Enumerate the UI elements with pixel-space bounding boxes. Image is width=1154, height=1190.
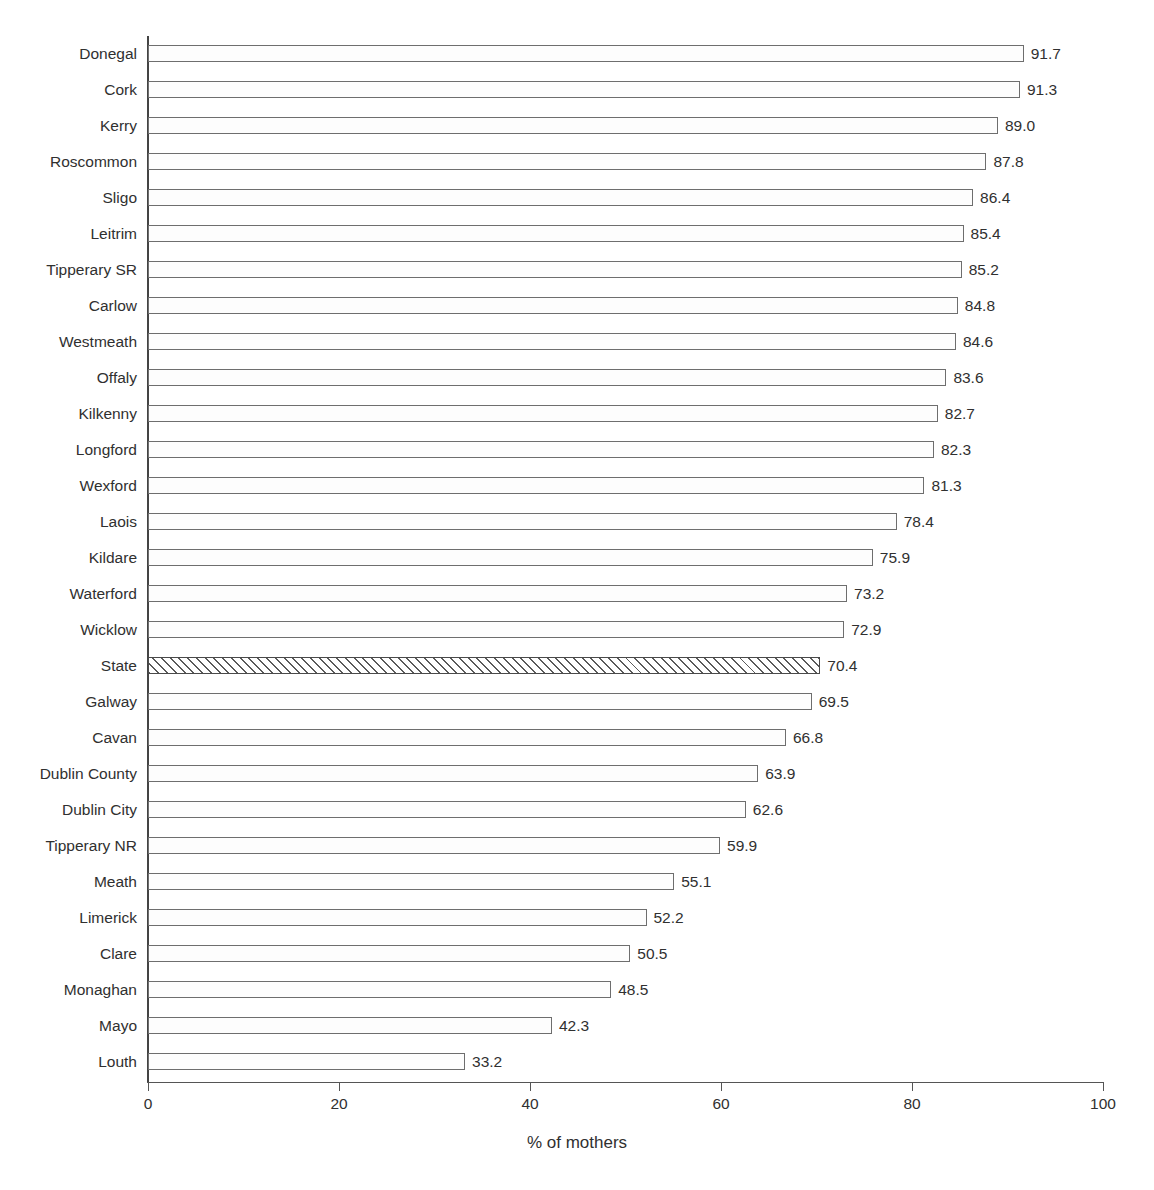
category-label: Wexford	[80, 468, 137, 504]
bar	[148, 801, 746, 818]
bar-row: Laois78.4	[148, 504, 1103, 540]
bar-value-label: 78.4	[897, 513, 934, 530]
bar-row: Dublin County63.9	[148, 756, 1103, 792]
bar	[148, 1017, 552, 1034]
category-label: Tipperary NR	[45, 828, 137, 864]
category-label: Kildare	[89, 540, 137, 576]
category-label: Laois	[100, 504, 137, 540]
x-tick-mark	[530, 1082, 531, 1091]
bar-row: Roscommon87.8	[148, 144, 1103, 180]
category-label: Cork	[104, 72, 137, 108]
bar-value-label: 69.5	[812, 693, 849, 710]
bar-value-label: 55.1	[674, 873, 711, 890]
category-label: Wicklow	[80, 612, 137, 648]
category-label: Longford	[76, 432, 137, 468]
bar-value-label: 63.9	[758, 765, 795, 782]
bar-value-label: 33.2	[465, 1053, 502, 1070]
bar-value-label: 48.5	[611, 981, 648, 998]
x-axis-spine	[147, 1082, 1104, 1083]
bar	[148, 477, 924, 494]
x-tick-label: 0	[144, 1095, 153, 1113]
bar	[148, 981, 611, 998]
bar-row: Offaly83.6	[148, 360, 1103, 396]
bar-value-label: 73.2	[847, 585, 884, 602]
bar	[148, 693, 812, 710]
bar-row: Carlow84.8	[148, 288, 1103, 324]
bar-row: Cork91.3	[148, 72, 1103, 108]
bar-row: Meath55.1	[148, 864, 1103, 900]
category-label: Cavan	[92, 720, 137, 756]
bar	[148, 549, 873, 566]
bar-row: Clare50.5	[148, 936, 1103, 972]
bar-row: Kerry89.0	[148, 108, 1103, 144]
bar-value-label: 75.9	[873, 549, 910, 566]
bar-value-label: 83.6	[946, 369, 983, 386]
category-label: Leitrim	[90, 216, 137, 252]
bar-row: Cavan66.8	[148, 720, 1103, 756]
bar-row: Waterford73.2	[148, 576, 1103, 612]
category-label: Mayo	[99, 1008, 137, 1044]
bar-value-label: 84.6	[956, 333, 993, 350]
category-label: Dublin County	[40, 756, 137, 792]
bar-row: Longford82.3	[148, 432, 1103, 468]
bar-row: Monaghan48.5	[148, 972, 1103, 1008]
bar-value-label: 42.3	[552, 1017, 589, 1034]
bar-value-label: 86.4	[973, 189, 1010, 206]
category-label: Sligo	[103, 180, 137, 216]
bar-row: Wexford81.3	[148, 468, 1103, 504]
category-label: Limerick	[79, 900, 137, 936]
bar-value-label: 66.8	[786, 729, 823, 746]
x-tick-label: 100	[1090, 1095, 1116, 1113]
category-label: Carlow	[89, 288, 137, 324]
x-tick-label: 40	[521, 1095, 538, 1113]
bar-value-label: 50.5	[630, 945, 667, 962]
category-label: Clare	[100, 936, 137, 972]
category-label: Tipperary SR	[46, 252, 137, 288]
bar	[148, 585, 847, 602]
bar	[148, 261, 962, 278]
bar-chart: Donegal91.7Cork91.3Kerry89.0Roscommon87.…	[0, 0, 1154, 1190]
bar-value-label: 87.8	[986, 153, 1023, 170]
bar-row: Leitrim85.4	[148, 216, 1103, 252]
bar-row: Donegal91.7	[148, 36, 1103, 72]
bar	[148, 621, 844, 638]
bar	[148, 945, 630, 962]
bar	[148, 405, 938, 422]
bar-value-label: 59.9	[720, 837, 757, 854]
category-label: Monaghan	[64, 972, 137, 1008]
category-label: Kilkenny	[78, 396, 137, 432]
bar	[148, 765, 758, 782]
bar	[148, 837, 720, 854]
x-tick-label: 80	[903, 1095, 920, 1113]
bar	[148, 729, 786, 746]
bar-value-label: 62.6	[746, 801, 783, 818]
bar	[148, 873, 674, 890]
bar-row: Louth33.2	[148, 1044, 1103, 1080]
bar	[148, 441, 934, 458]
category-label: State	[101, 648, 137, 684]
bar-row: Galway69.5	[148, 684, 1103, 720]
bar-row: Wicklow72.9	[148, 612, 1103, 648]
bar-value-label: 70.4	[820, 657, 857, 674]
category-label: Westmeath	[59, 324, 137, 360]
bar-value-label: 85.4	[964, 225, 1001, 242]
category-label: Galway	[85, 684, 137, 720]
x-tick-mark	[721, 1082, 722, 1091]
bar-row: Kildare75.9	[148, 540, 1103, 576]
bar	[148, 369, 946, 386]
bar-value-label: 89.0	[998, 117, 1035, 134]
bar-value-label: 82.7	[938, 405, 975, 422]
x-tick-mark	[1103, 1082, 1104, 1091]
bar	[148, 1053, 465, 1070]
plot-area: Donegal91.7Cork91.3Kerry89.0Roscommon87.…	[148, 36, 1103, 1082]
bar	[148, 189, 973, 206]
bar-value-label: 52.2	[647, 909, 684, 926]
x-tick-label: 20	[330, 1095, 347, 1113]
bar-value-label: 85.2	[962, 261, 999, 278]
bar	[148, 909, 647, 926]
category-label: Meath	[94, 864, 137, 900]
bar-value-label: 81.3	[924, 477, 961, 494]
bar-row: Kilkenny82.7	[148, 396, 1103, 432]
bar	[148, 513, 897, 530]
bar-row: Sligo86.4	[148, 180, 1103, 216]
